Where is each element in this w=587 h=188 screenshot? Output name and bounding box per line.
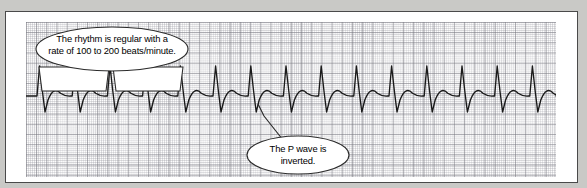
rhythm-callout-line2: rate of 100 to 200 beats/minute. <box>39 45 185 57</box>
figure-page: The rhythm is regular with a rate of 100… <box>5 11 578 183</box>
pwave-callout-text: The P wave is inverted. <box>250 143 346 168</box>
rhythm-callout-line1: The rhythm is regular with a <box>39 33 185 45</box>
rhythm-callout-text: The rhythm is regular with a rate of 100… <box>39 33 185 58</box>
pwave-callout-line2: inverted. <box>250 155 346 167</box>
pwave-callout-line1: The P wave is <box>250 143 346 155</box>
